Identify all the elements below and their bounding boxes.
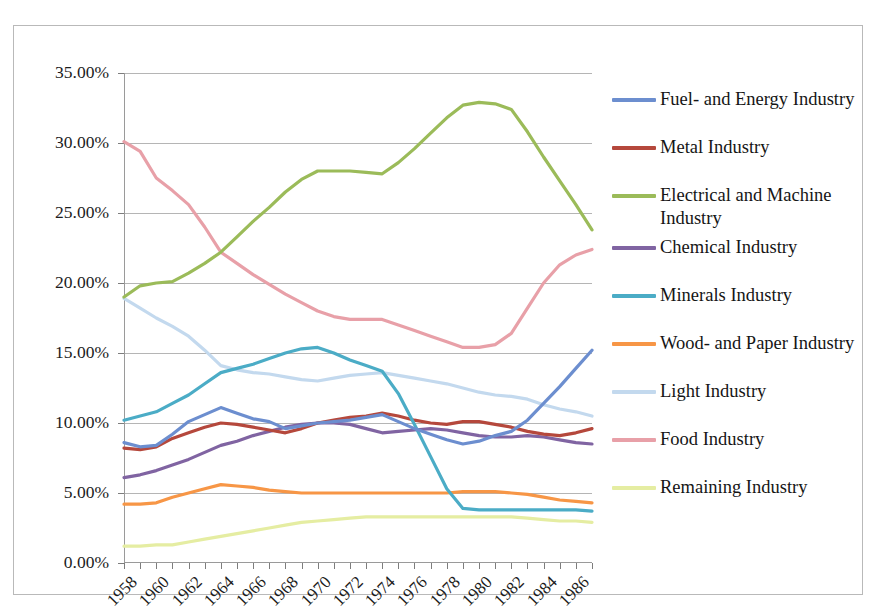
x-tick-mark (302, 563, 303, 569)
y-tick-label: 30.00% (14, 134, 109, 151)
legend-item-label: Wood- and Paper Industry (660, 332, 854, 355)
legend-color-swatch (612, 146, 656, 150)
legend-item-label: Metal Industry (660, 136, 769, 159)
x-tick-mark (156, 563, 157, 569)
chart-root: 0.00%5.00%10.00%15.00%20.00%25.00%30.00%… (0, 0, 885, 615)
legend-item-label: Fuel- and Energy Industry (660, 88, 854, 111)
x-tick-mark (221, 563, 222, 569)
x-tick-mark (189, 563, 190, 569)
y-tick-label: 25.00% (14, 204, 109, 221)
chart-legend: Fuel- and Energy IndustryMetal IndustryE… (612, 88, 874, 524)
x-tick-mark (463, 563, 464, 569)
x-tick-mark (544, 563, 545, 569)
legend-item[interactable]: Wood- and Paper Industry (612, 332, 874, 374)
series-lines (124, 73, 592, 563)
x-tick-mark (334, 563, 335, 569)
x-tick-mark (576, 563, 577, 569)
x-tick-mark (447, 563, 448, 569)
y-tick-label: 0.00% (14, 554, 109, 571)
x-tick-mark (253, 563, 254, 569)
chart-frame: 0.00%5.00%10.00%15.00%20.00%25.00%30.00%… (13, 25, 863, 595)
legend-item[interactable]: Remaining Industry (612, 476, 874, 518)
x-tick-mark (172, 563, 173, 569)
legend-item[interactable]: Electrical and Machine Industry (612, 184, 874, 230)
legend-color-swatch (612, 390, 656, 394)
legend-item-label: Remaining Industry (660, 476, 807, 499)
legend-item[interactable]: Fuel- and Energy Industry (612, 88, 874, 130)
legend-item[interactable]: Food Industry (612, 428, 874, 470)
x-tick-mark (366, 563, 367, 569)
y-tick-label: 10.00% (14, 414, 109, 431)
legend-item-label: Light Industry (660, 380, 766, 403)
y-tick-label: 20.00% (14, 274, 109, 291)
x-tick-mark (592, 563, 593, 569)
x-tick-mark (269, 563, 270, 569)
x-tick-mark (205, 563, 206, 569)
y-tick-label: 15.00% (14, 344, 109, 361)
x-tick-mark (527, 563, 528, 569)
legend-item-label: Chemical Industry (660, 236, 797, 259)
x-tick-mark (350, 563, 351, 569)
x-tick-mark (479, 563, 480, 569)
legend-item[interactable]: Metal Industry (612, 136, 874, 178)
x-tick-mark (285, 563, 286, 569)
series-line (124, 517, 592, 546)
legend-item[interactable]: Chemical Industry (612, 236, 874, 278)
x-tick-mark (511, 563, 512, 569)
legend-color-swatch (612, 98, 656, 102)
x-tick-mark (560, 563, 561, 569)
x-tick-mark (140, 563, 141, 569)
legend-color-swatch (612, 246, 656, 250)
x-tick-mark (431, 563, 432, 569)
series-line (124, 102, 592, 297)
x-tick-mark (398, 563, 399, 569)
legend-color-swatch (612, 342, 656, 346)
x-tick-mark (237, 563, 238, 569)
legend-color-swatch (612, 294, 656, 298)
legend-item-label: Electrical and Machine Industry (660, 184, 870, 230)
series-line (124, 485, 592, 505)
x-tick-mark (124, 563, 125, 569)
legend-color-swatch (612, 438, 656, 442)
legend-item[interactable]: Light Industry (612, 380, 874, 422)
plot-area (124, 73, 592, 563)
x-tick-mark (414, 563, 415, 569)
x-tick-mark (318, 563, 319, 569)
legend-item-label: Minerals Industry (660, 284, 792, 307)
x-tick-mark (495, 563, 496, 569)
y-tick-label: 5.00% (14, 484, 109, 501)
legend-item-label: Food Industry (660, 428, 764, 451)
x-tick-mark (382, 563, 383, 569)
legend-color-swatch (612, 486, 656, 490)
y-tick-label: 35.00% (14, 64, 109, 81)
legend-color-swatch (612, 194, 656, 198)
legend-item[interactable]: Minerals Industry (612, 284, 874, 326)
